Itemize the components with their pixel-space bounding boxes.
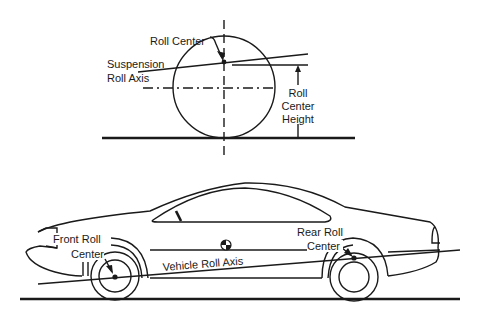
center-of-gravity-icon (221, 240, 231, 250)
roll-center-point (222, 60, 227, 65)
front-roll-center-label-1: Front Roll (53, 233, 101, 245)
wheel-front-view: Roll Center Suspension Roll Axis Roll Ce… (102, 20, 355, 160)
headlight-lower-edge (46, 246, 57, 248)
roll-center-height-label-2: Center (281, 100, 314, 112)
suspension-roll-axis-label-1: Suspension (107, 58, 165, 70)
rear-roll-center-label-1: Rear Roll (297, 226, 343, 238)
roll-center-label: Roll Center (150, 35, 205, 47)
roll-center-height-label-3: Height (282, 113, 314, 125)
front-roll-center-arrowhead (106, 265, 113, 274)
roll-center-height-arrowhead (295, 65, 301, 72)
roll-center-height-label-1: Roll (289, 87, 308, 99)
front-roll-center-label-2: Center (71, 248, 104, 260)
door-pillar (176, 211, 181, 221)
roll-axis-diagram: Roll Center Suspension Roll Axis Roll Ce… (0, 0, 483, 319)
rear-rim (339, 262, 369, 292)
front-roll-center-point (112, 274, 117, 279)
diagram-canvas: Roll Center Suspension Roll Axis Roll Ce… (0, 0, 483, 319)
front-wheel-arch-outer (111, 238, 148, 278)
suspension-roll-axis-label-2: Roll Axis (107, 72, 150, 84)
car-side-view: Front Roll Center Rear Roll Center Vehic… (20, 183, 460, 301)
rear-roll-center-label-2: Center (307, 240, 340, 252)
